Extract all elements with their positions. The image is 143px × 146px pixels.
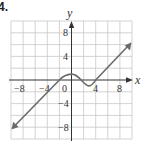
x-axis-label: x (134, 73, 141, 87)
x-tick-label: −8 (14, 83, 25, 94)
graph: x y −8 −4 0 4 8 8 4 −4 −8 (0, 0, 143, 146)
y-tick-label: 8 (63, 27, 68, 38)
y-tick-label: −8 (58, 122, 69, 133)
x-tick-label: 0 (62, 83, 67, 94)
x-tick-label: 8 (117, 83, 122, 94)
y-tick-label: 4 (63, 51, 68, 62)
x-tick-label: 4 (93, 83, 98, 94)
axes (9, 21, 133, 141)
y-tick-label: −4 (58, 98, 69, 109)
y-axis-arrow-icon (69, 21, 74, 28)
y-axis-label: y (66, 6, 73, 20)
